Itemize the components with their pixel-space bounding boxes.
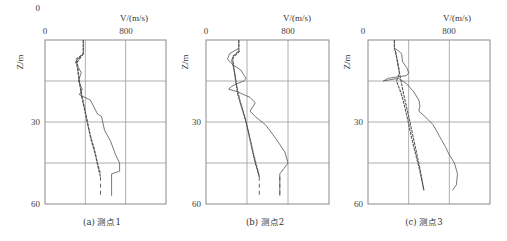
- y-tick-60: 60: [31, 199, 41, 209]
- x-axis-label: V/(m/s): [120, 13, 148, 23]
- series-curve-smooth-1: [233, 40, 260, 177]
- figure: V/(m/s) 0 800 0 30 60 Z/m (a) 测点1 V/(m/s…: [0, 0, 507, 241]
- caption: (a) 测点1: [83, 217, 121, 227]
- panel-c: V/(m/s) 0 800 30 60 Z/m (c) 测点3: [342, 13, 490, 227]
- series-curve-wavy: [75, 40, 119, 196]
- series-curve-wavy: [383, 40, 457, 190]
- x-tick-0: 0: [43, 26, 48, 36]
- y-tick-60: 60: [192, 199, 202, 209]
- y-axis-label: Z/m: [180, 55, 190, 70]
- caption: (c) 测点3: [405, 217, 443, 227]
- x-tick-800: 800: [281, 26, 295, 36]
- x-axis-label: V/(m/s): [283, 13, 311, 23]
- plot-area: [45, 40, 166, 204]
- y-axis-label: Z/m: [342, 55, 352, 70]
- y-tick-30: 30: [31, 117, 41, 127]
- x-tick-0: 0: [204, 26, 209, 36]
- panel-b: V/(m/s) 0 800 30 60 Z/m (b) 测点2: [180, 13, 329, 227]
- x-axis-label: V/(m/s): [443, 13, 471, 23]
- x-tick-0: 0: [361, 26, 366, 36]
- plot-area: [206, 40, 329, 204]
- plot-area: [368, 40, 490, 204]
- series-curve-smooth-1: [76, 40, 100, 174]
- caption: (b) 测点2: [246, 217, 284, 227]
- series-curve-smooth-2: [232, 51, 260, 177]
- panel-a: V/(m/s) 0 800 0 30 60 Z/m (a) 测点1: [15, 3, 166, 227]
- y-axis-label: Z/m: [15, 55, 25, 70]
- x-tick-800: 800: [119, 26, 133, 36]
- y-tick-60: 60: [354, 199, 364, 209]
- y-tick-30: 30: [192, 117, 202, 127]
- x-tick-800: 800: [442, 26, 456, 36]
- y-tick-0: 0: [36, 3, 41, 13]
- y-tick-30: 30: [354, 117, 364, 127]
